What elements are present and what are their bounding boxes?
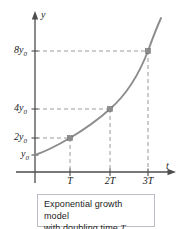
exponential-curve (35, 18, 161, 155)
y-tick-label-8y0: 8y0 (14, 44, 27, 58)
y-tick-2y0-subscript: 0 (23, 137, 27, 145)
data-point-markers (68, 49, 151, 141)
caption-doubling-time-symbol: T (120, 223, 125, 229)
x-tick-label-3t: 3T (139, 175, 157, 186)
caption-line-2-prefix: with doubling time (44, 223, 120, 229)
y-tick-y0-subscript: 0 (25, 154, 29, 162)
y-tick-label-2y0: 2y0 (14, 131, 27, 145)
y-axis (32, 11, 38, 183)
y-tick-4y0-subscript: 0 (23, 108, 27, 116)
x-axis-label: t (166, 160, 169, 171)
x-tick-label-2t: 2T (101, 175, 119, 186)
caption-box: Exponential growth modelwith doubling ti… (37, 194, 155, 227)
exponential-growth-figure: y t 8y0 4y0 2y0 y0 T 2T 3T Exponential g… (0, 0, 190, 229)
y-tick-8y0-subscript: 0 (23, 50, 27, 58)
caption-line-1: Exponential growth model (44, 199, 122, 221)
y-tick-label-y0: y0 (21, 148, 29, 162)
y-axis-label: y (41, 9, 45, 20)
x-tick-label-t: T (63, 175, 77, 186)
caption-text: Exponential growth modelwith doubling ti… (44, 198, 149, 229)
y-tick-label-4y0: 4y0 (14, 102, 27, 116)
horizontal-dashed-guides (36, 51, 148, 138)
